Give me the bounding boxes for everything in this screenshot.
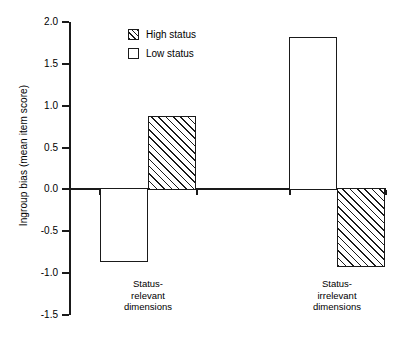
category-label-line: Status- bbox=[88, 278, 208, 290]
y-tick-label: 0.5 bbox=[24, 143, 58, 153]
legend-swatch-open-icon bbox=[128, 48, 139, 59]
category-label-line: relevant bbox=[88, 290, 208, 302]
y-tick-label: 0.0 bbox=[24, 184, 58, 194]
y-tick-label: 1.0 bbox=[24, 101, 58, 111]
category-label-line: dimensions bbox=[277, 301, 397, 313]
bar-status-irrelevant-low-status bbox=[289, 37, 337, 190]
category-label-line: dimensions bbox=[88, 301, 208, 313]
legend-item-high-status: High status bbox=[128, 26, 196, 43]
y-axis-tick bbox=[62, 63, 69, 65]
bar-status-irrelevant-high-status bbox=[337, 188, 385, 267]
y-tick-label: -1.0 bbox=[24, 268, 58, 278]
legend-label: High status bbox=[146, 29, 196, 40]
y-axis-tick bbox=[62, 314, 69, 316]
y-tick-label: -0.5 bbox=[24, 226, 58, 236]
legend-item-low-status: Low status bbox=[128, 45, 196, 62]
category-label-status-relevant: Status- relevant dimensions bbox=[88, 278, 208, 313]
y-axis-tick bbox=[62, 105, 69, 107]
y-axis-tick bbox=[62, 272, 69, 274]
chart-legend: High status Low status bbox=[128, 26, 196, 64]
bar-chart-figure: Ingroup bias (mean item score) 2.0 1.5 1… bbox=[0, 0, 402, 339]
y-axis-tick bbox=[62, 188, 69, 190]
category-label-line: Status- bbox=[277, 278, 397, 290]
y-axis-tick-labels: 2.0 1.5 1.0 0.5 0.0 -0.5 -1.0 -1.5 bbox=[22, 0, 58, 339]
bar-status-relevant-high-status bbox=[148, 116, 196, 190]
legend-swatch-hatched-icon bbox=[128, 29, 139, 40]
legend-label: Low status bbox=[146, 48, 194, 59]
x-axis-tick bbox=[289, 190, 291, 195]
x-axis-tick bbox=[385, 190, 387, 195]
y-tick-label: 1.5 bbox=[24, 59, 58, 69]
y-tick-label: -1.5 bbox=[24, 310, 58, 320]
category-label-status-irrelevant: Status- irrelevant dimensions bbox=[277, 278, 397, 313]
y-axis-tick bbox=[62, 230, 69, 232]
category-label-line: irrelevant bbox=[277, 290, 397, 302]
bar-status-relevant-low-status bbox=[100, 188, 148, 262]
x-axis-tick bbox=[196, 190, 198, 195]
y-axis-tick bbox=[62, 21, 69, 23]
y-axis-tick bbox=[62, 147, 69, 149]
y-tick-label: 2.0 bbox=[24, 17, 58, 27]
y-axis-line bbox=[69, 22, 71, 315]
